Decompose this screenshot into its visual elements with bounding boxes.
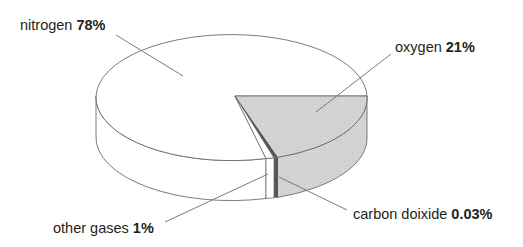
label-oxygen: oxygen 21%	[395, 40, 475, 55]
label-nitrogen-name: nitrogen	[20, 17, 72, 33]
label-nitrogen: nitrogen 78%	[20, 18, 105, 33]
label-oxygen-value: 21%	[446, 39, 475, 55]
label-other-name: other gases	[53, 220, 129, 236]
pie-side-co2	[274, 157, 278, 197]
label-oxygen-name: oxygen	[395, 39, 442, 55]
label-co2: carbon doixide 0.03%	[353, 207, 492, 222]
label-other: other gases 1%	[53, 221, 154, 236]
label-co2-name: carbon doixide	[353, 206, 447, 222]
pie-side-other	[266, 158, 274, 199]
label-other-value: 1%	[133, 220, 154, 236]
label-nitrogen-value: 78%	[76, 17, 105, 33]
label-co2-value: 0.03%	[451, 206, 492, 222]
